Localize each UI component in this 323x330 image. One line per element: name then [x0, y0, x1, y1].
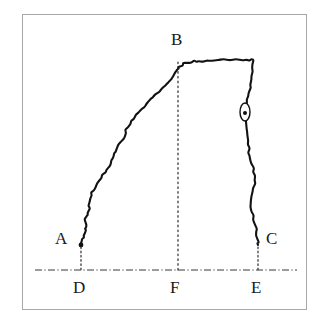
label-b: B	[171, 31, 182, 48]
label-d: D	[73, 279, 85, 296]
contour-diagram	[0, 0, 323, 330]
label-c: C	[266, 230, 277, 247]
oval-marker	[240, 103, 250, 121]
figure-container: A B C D F E	[0, 0, 323, 330]
label-f: F	[170, 279, 179, 296]
label-a: A	[55, 230, 67, 247]
label-e: E	[251, 279, 261, 296]
contour-curve	[81, 59, 259, 245]
